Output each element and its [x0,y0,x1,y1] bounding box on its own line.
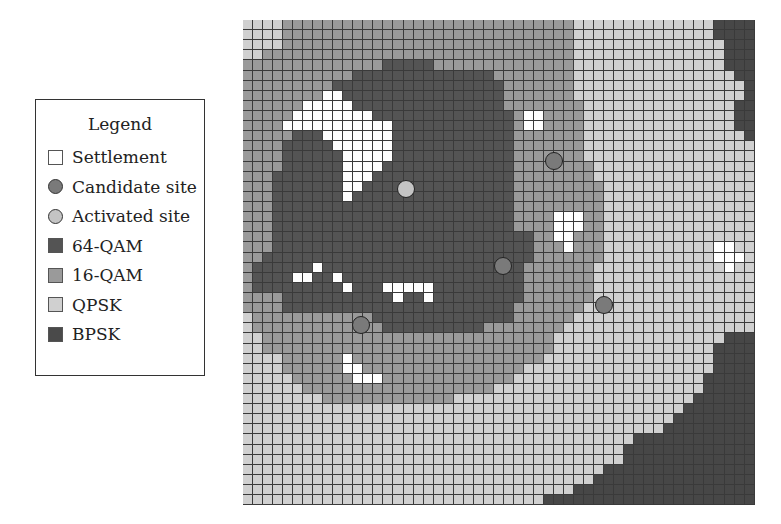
grid-cell [624,71,634,81]
grid-cell [725,303,735,313]
grid-cell [464,172,474,182]
grid-cell [654,192,664,202]
grid-cell [614,71,624,81]
grid-cell [564,293,574,303]
grid-cell [474,384,484,394]
grid-cell [383,364,393,374]
grid-cell [604,111,614,121]
grid-cell [424,323,434,333]
grid-cell [714,121,724,131]
grid-cell [684,364,694,374]
grid-cell [564,475,574,485]
grid-cell [263,434,273,444]
grid-cell [604,404,614,414]
grid-cell [393,344,403,354]
grid-cell [464,273,474,283]
grid-cell [303,101,313,111]
grid-cell [434,71,444,81]
grid-cell [544,283,554,293]
grid-cell [614,313,624,323]
grid-cell [263,364,273,374]
grid-cell [574,455,584,465]
grid-cell [735,71,745,81]
grid-cell [594,263,604,273]
grid-cell [283,404,293,414]
grid-cell [333,131,343,141]
grid-cell [373,283,383,293]
grid-cell [243,374,253,384]
grid-cell [694,354,704,364]
grid-cell [584,273,594,283]
grid-cell [534,253,544,263]
grid-cell [273,475,283,485]
grid-cell [554,354,564,364]
grid-cell [745,323,755,333]
grid-cell [574,20,584,30]
grid-cell [243,20,253,30]
grid-cell [243,111,253,121]
grid-cell [684,202,694,212]
grid-cell [333,71,343,81]
grid-cell [534,101,544,111]
grid-cell [725,323,735,333]
grid-cell [554,71,564,81]
grid-cell [594,465,604,475]
grid-cell [704,182,714,192]
grid-cell [464,414,474,424]
grid-cell [564,485,574,495]
grid-cell [654,151,664,161]
grid-cell [293,465,303,475]
grid-cell [534,30,544,40]
grid-cell [323,495,333,505]
grid-cell [243,202,253,212]
grid-cell [243,273,253,283]
grid-cell [725,91,735,101]
grid-cell [614,172,624,182]
grid-cell [414,394,424,404]
grid-cell [644,40,654,50]
grid-cell [694,60,704,70]
grid-cell [333,344,343,354]
grid-cell [424,232,434,242]
grid-cell [604,40,614,50]
grid-cell [694,202,704,212]
grid-cell [694,263,704,273]
grid-cell [434,354,444,364]
grid-cell [454,192,464,202]
grid-cell [704,374,714,384]
grid-cell [434,111,444,121]
grid-cell [614,283,624,293]
grid-cell [554,232,564,242]
grid-cell [534,455,544,465]
grid-cell [614,151,624,161]
grid-cell [634,101,644,111]
grid-cell [444,111,454,121]
grid-cell [574,465,584,475]
grid-cell [464,333,474,343]
grid-cell [494,364,504,374]
grid-cell [644,172,654,182]
grid-cell [464,121,474,131]
grid-cell [343,212,353,222]
grid-cell [353,182,363,192]
grid-cell [664,212,674,222]
grid-cell [745,60,755,70]
grid-cell [253,263,263,273]
grid-cell [574,222,584,232]
grid-cell [714,495,724,505]
grid-cell [323,313,333,323]
grid-cell [454,71,464,81]
grid-cell [293,50,303,60]
grid-cell [644,485,654,495]
grid-cell [293,495,303,505]
grid-cell [624,101,634,111]
grid-cell [574,293,584,303]
grid-cell [634,283,644,293]
grid-cell [534,111,544,121]
grid-cell [634,434,644,444]
grid-cell [745,404,755,414]
grid-cell [664,192,674,202]
grid-cell [464,91,474,101]
grid-cell [564,333,574,343]
grid-cell [243,101,253,111]
